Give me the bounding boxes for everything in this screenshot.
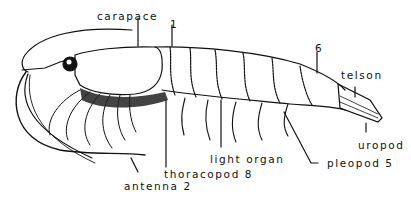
label-uropod: uropod bbox=[358, 139, 405, 151]
segment-boundary bbox=[170, 47, 175, 95]
label-thoracopod-8: thoracopod 8 bbox=[164, 168, 253, 180]
abdomen-ventral bbox=[162, 90, 345, 110]
segment-boundary bbox=[272, 58, 280, 103]
label-pleopod-5: pleopod 5 bbox=[327, 157, 394, 169]
label-light-organ: light organ bbox=[210, 153, 285, 165]
label-antenna-2: antenna 2 bbox=[124, 180, 192, 192]
segment-boundary bbox=[215, 50, 222, 99]
label-carapace: carapace bbox=[97, 10, 158, 22]
segment-boundary bbox=[190, 48, 196, 97]
segment-boundary bbox=[243, 53, 250, 101]
label-segment-1: 1 bbox=[170, 18, 178, 30]
label-segment-6: 6 bbox=[315, 42, 323, 54]
label-telson: telson bbox=[341, 69, 383, 81]
pleopods bbox=[182, 98, 288, 142]
carapace-outline bbox=[75, 47, 162, 95]
segment-boundary bbox=[300, 66, 312, 105]
